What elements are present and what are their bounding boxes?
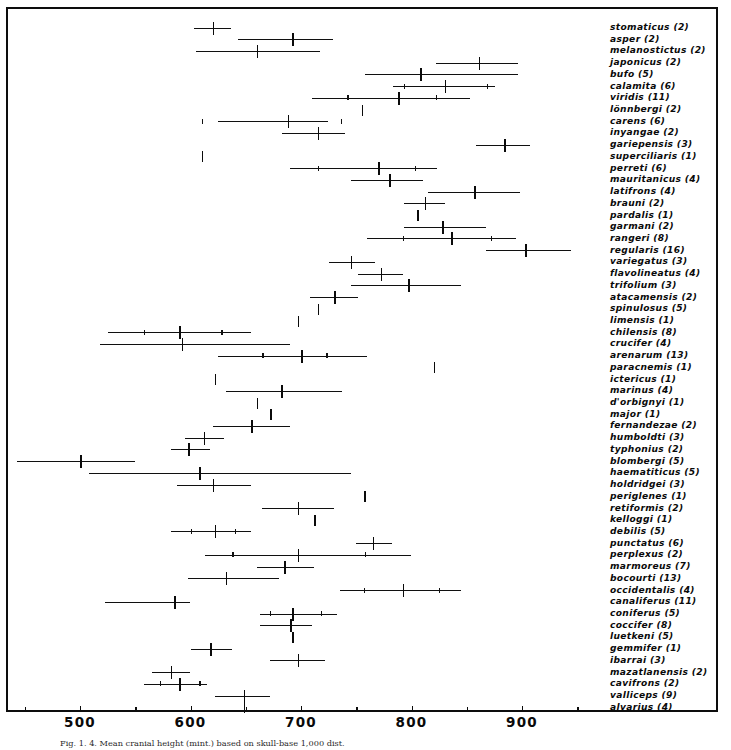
single-specimen-mark (257, 398, 259, 409)
range-line (486, 250, 571, 251)
species-label: major (1) (610, 409, 660, 419)
confidence-limit-tick (365, 552, 366, 557)
species-label: occidentalis (4) (610, 585, 695, 595)
axis-minor-tick (577, 707, 578, 710)
species-label: haematiticus (5) (610, 467, 700, 477)
axis-minor-tick (356, 707, 357, 710)
species-label: canaliferus (11) (610, 596, 697, 606)
range-line (351, 285, 462, 286)
axis-minor-tick (246, 707, 247, 710)
species-label: spinulosus (5) (610, 303, 687, 313)
axis-tick-label: 700 (285, 714, 317, 730)
confidence-limit-tick (191, 529, 192, 534)
species-label: kelloggi (1) (610, 514, 673, 524)
species-label: brauni (2) (610, 198, 665, 208)
axis-minor-tick (467, 707, 468, 710)
single-specimen-mark (298, 316, 300, 327)
species-label: debilis (5) (610, 526, 666, 536)
confidence-limit-tick (318, 166, 319, 171)
confidence-limit-tick (364, 588, 365, 593)
figure-caption: Fig. 1. 4. Mean cranial height (mint.) b… (60, 738, 720, 748)
axis-tick-label: 600 (175, 714, 207, 730)
range-line (218, 121, 327, 122)
species-label: valliceps (9) (610, 690, 677, 700)
range-line (205, 555, 412, 556)
x-axis-tick-labels: 500600700800900 (0, 714, 731, 734)
species-label: holdridgei (3) (610, 479, 685, 489)
species-label: d'orbignyi (1) (610, 397, 684, 407)
species-label: garmani (2) (610, 221, 674, 231)
range-line (367, 238, 516, 239)
confidence-limit-tick (403, 236, 404, 241)
species-label: bufo (5) (610, 69, 654, 79)
species-label: limensis (1) (610, 315, 674, 325)
axis-minor-tick (25, 707, 26, 710)
single-specimen-mark (318, 304, 320, 315)
species-label: melanostictus (2) (610, 45, 706, 55)
species-label: coccifer (8) (610, 620, 672, 630)
confidence-limit-tick (199, 681, 200, 686)
species-label: latifrons (4) (610, 186, 676, 196)
confidence-limit-tick (202, 119, 203, 124)
species-label: coniferus (5) (610, 608, 680, 618)
species-label: bocourti (13) (610, 573, 682, 583)
range-line (260, 614, 337, 615)
species-label: luetkeni (5) (610, 631, 674, 641)
confidence-limit-tick (321, 611, 322, 616)
confidence-limit-tick (270, 611, 271, 616)
single-specimen-mark (270, 409, 272, 420)
species-label: japonicus (2) (610, 57, 681, 67)
range-line (351, 180, 423, 181)
species-label: cavifrons (2) (610, 678, 680, 688)
plot-area (8, 9, 604, 710)
species-label: mazatlanensis (2) (610, 667, 707, 677)
species-label: asper (2) (610, 34, 660, 44)
confidence-limit-tick (235, 529, 236, 534)
species-label: marinus (4) (610, 385, 673, 395)
axis-major-tick (522, 706, 523, 710)
confidence-limit-tick (487, 84, 488, 89)
axis-major-tick (301, 706, 302, 710)
species-label: gemmifer (1) (610, 643, 681, 653)
single-specimen-mark (364, 491, 366, 502)
range-line (260, 625, 312, 626)
axis-tick-label: 500 (64, 714, 96, 730)
axis-tick-label: 900 (506, 714, 538, 730)
species-label: humboldti (3) (610, 432, 685, 442)
species-label: paracnemis (1) (610, 362, 692, 372)
axis-major-tick (80, 706, 81, 710)
range-line (282, 133, 345, 134)
species-label: typhonius (2) (610, 444, 683, 454)
species-label: retiformis (2) (610, 503, 684, 513)
species-label: perplexus (2) (610, 549, 683, 559)
species-label: pardalis (1) (610, 210, 673, 220)
range-line (89, 473, 351, 474)
range-line (177, 485, 251, 486)
confidence-limit-tick (221, 330, 222, 335)
species-label: rangeri (8) (610, 233, 669, 243)
confidence-limit-tick (160, 681, 161, 686)
species-label: crucifer (4) (610, 338, 671, 348)
range-line (365, 74, 517, 75)
species-label: viridis (11) (610, 92, 670, 102)
species-label: atacamensis (2) (610, 292, 697, 302)
single-specimen-mark (417, 210, 419, 221)
species-label: flavolineatus (4) (610, 268, 700, 278)
single-specimen-mark (292, 632, 294, 643)
range-line (340, 590, 462, 591)
species-label-column: stomaticus (2)asper (2)melanostictus (2)… (610, 9, 728, 710)
species-label: trifolium (3) (610, 280, 677, 290)
single-specimen-mark (314, 515, 316, 526)
confidence-limit-tick (262, 353, 263, 358)
species-label: blombergi (5) (610, 456, 685, 466)
range-line (238, 39, 333, 40)
range-line (144, 684, 207, 685)
species-label: calamita (6) (610, 81, 676, 91)
confidence-limit-tick (436, 95, 437, 100)
confidence-limit-tick (144, 330, 145, 335)
range-line (218, 356, 367, 357)
range-line (436, 63, 518, 64)
range-line (404, 227, 486, 228)
species-label: lönnbergi (2) (610, 104, 681, 114)
species-label: arenarum (13) (610, 350, 689, 360)
